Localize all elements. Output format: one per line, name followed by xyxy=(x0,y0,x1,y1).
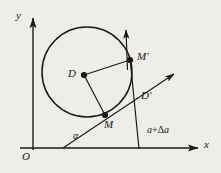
point-label-dprime: D' xyxy=(141,90,151,101)
ray-alpha-line xyxy=(63,74,174,148)
main-circle xyxy=(42,27,132,117)
angle-label-increment: a+Δa xyxy=(147,125,169,135)
y-axis-label: y xyxy=(16,10,21,21)
geometry-figure: y x O D M M' D' α a+Δa xyxy=(0,0,221,173)
radius-d-mprime-line xyxy=(84,60,130,75)
angle-label-alpha: α xyxy=(73,131,78,141)
point-label-d: D xyxy=(68,68,76,79)
angle-increment-var: a xyxy=(164,124,169,135)
point-dot-mprime xyxy=(127,57,133,63)
figure-canvas xyxy=(0,0,221,173)
x-axis-label: x xyxy=(204,139,209,150)
point-label-mprime: M' xyxy=(137,51,149,62)
tangent-arrow-line xyxy=(126,30,128,70)
point-dot-d xyxy=(81,72,87,78)
line-mprime-to-axis xyxy=(130,58,139,149)
point-label-m: M xyxy=(104,119,113,130)
radius-d-m-line xyxy=(84,75,105,115)
origin-label: O xyxy=(22,151,30,162)
